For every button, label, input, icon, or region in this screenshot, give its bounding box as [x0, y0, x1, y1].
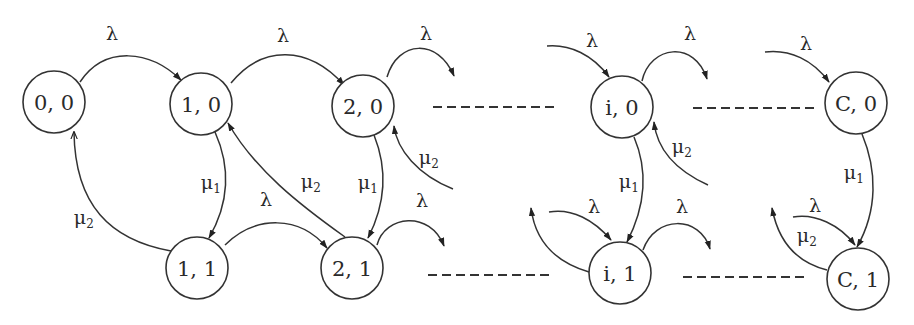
state-node-2-1: 2, 1: [321, 237, 383, 299]
svg-text:1: 1: [370, 182, 378, 196]
state-node-i-0: i, 0: [591, 76, 653, 138]
svg-text:μ: μ: [74, 206, 86, 228]
svg-text:μ: μ: [201, 171, 213, 193]
svg-text:λ: λ: [586, 29, 598, 51]
svg-text:2, 1: 2, 1: [332, 257, 372, 281]
svg-text:μ: μ: [619, 170, 631, 192]
edge-mu1-10-11: μ 1: [201, 132, 226, 238]
svg-text:2, 0: 2, 0: [343, 95, 383, 119]
svg-text:0, 0: 0, 0: [34, 91, 74, 115]
svg-text:μ: μ: [797, 224, 809, 246]
state-node-2-0: 2, 0: [332, 75, 394, 137]
edge-lambda-in-i0: λ: [547, 29, 609, 77]
edge-mu2-11-00: μ 2: [74, 132, 171, 251]
svg-text:μ: μ: [672, 135, 684, 157]
svg-text:2: 2: [431, 157, 439, 171]
svg-text:1: 1: [631, 181, 639, 195]
svg-text:λ: λ: [260, 188, 272, 210]
state-node-C-1: C, 1: [827, 248, 889, 310]
svg-text:2: 2: [684, 146, 692, 160]
state-diagram: λ λ λ λ λ λ μ 1 μ 1 μ 1 μ 1: [0, 0, 914, 325]
svg-text:λ: λ: [800, 32, 812, 54]
svg-text:μ: μ: [301, 170, 313, 192]
svg-text:λ: λ: [277, 24, 289, 46]
edge-mu2-in-i0: μ 2: [654, 122, 708, 185]
svg-text:1, 0: 1, 0: [181, 93, 221, 117]
svg-text:1: 1: [213, 182, 221, 196]
svg-text:1, 1: 1, 1: [177, 257, 217, 281]
svg-text:μ: μ: [419, 146, 431, 168]
edge-lambda-11-21: λ: [225, 188, 327, 248]
state-node-0-0: 0, 0: [23, 71, 85, 133]
edge-lambda-in-i1: λ: [549, 195, 611, 240]
state-node-i-1: i, 1: [589, 242, 651, 304]
svg-text:λ: λ: [676, 195, 688, 217]
svg-text:2: 2: [809, 235, 817, 249]
edge-lambda-i0-out: λ: [642, 22, 707, 81]
svg-text:i, 1: i, 1: [603, 262, 636, 286]
state-node-C-0: C, 0: [825, 72, 887, 134]
edge-mu2-C1-out: μ 2: [772, 208, 827, 270]
svg-text:μ: μ: [844, 161, 856, 183]
svg-text:2: 2: [86, 217, 94, 231]
svg-text:λ: λ: [809, 194, 821, 216]
svg-text:μ: μ: [358, 171, 370, 193]
edge-lambda-in-C0: λ: [765, 32, 829, 82]
edge-mu2-21-10: μ 2: [228, 123, 345, 237]
edge-mu1-C0-C1: μ 1: [844, 134, 873, 247]
state-node-1-1: 1, 1: [166, 237, 228, 299]
edge-mu1-20-21: μ 1: [358, 135, 383, 238]
svg-text:C, 1: C, 1: [837, 268, 879, 292]
svg-text:i, 0: i, 0: [605, 96, 638, 120]
edge-lambda-20-out: λ: [387, 22, 454, 77]
edge-lambda-21-out: λ: [377, 189, 444, 246]
svg-text:λ: λ: [420, 22, 432, 44]
svg-text:λ: λ: [416, 189, 428, 211]
edge-lambda-00-10: λ: [80, 22, 181, 82]
svg-text:λ: λ: [684, 22, 696, 44]
edge-lambda-i1-out: λ: [643, 195, 710, 250]
svg-text:λ: λ: [106, 22, 118, 44]
state-node-1-0: 1, 0: [170, 73, 232, 135]
svg-text:λ: λ: [588, 195, 600, 217]
svg-text:2: 2: [313, 181, 321, 195]
edge-mu1-i0-i1: μ 1: [619, 137, 643, 242]
edge-lambda-10-20: λ: [231, 24, 344, 85]
svg-text:1: 1: [856, 172, 864, 186]
edge-mu2-in-20: μ 2: [394, 126, 453, 189]
edge-out-from-i1-left: [531, 208, 589, 272]
svg-text:C, 0: C, 0: [835, 92, 877, 116]
